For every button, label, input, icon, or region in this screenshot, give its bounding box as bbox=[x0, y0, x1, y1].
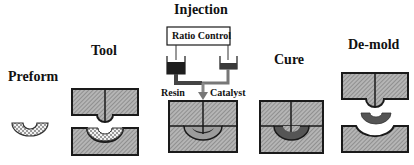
tool-lower-mold bbox=[72, 128, 138, 155]
injection-mold bbox=[169, 101, 237, 152]
demold-cured-part bbox=[361, 113, 391, 124]
stage-label-tool: Tool bbox=[91, 43, 117, 59]
tool-upper-mold bbox=[72, 89, 138, 122]
catalyst-label: Catalyst bbox=[210, 87, 246, 98]
stage-label-demold: De-mold bbox=[348, 37, 399, 53]
cure-mold bbox=[260, 101, 323, 153]
stage-label-injection: Injection bbox=[174, 2, 228, 18]
stage-label-cure: Cure bbox=[274, 52, 304, 68]
ratio-control-label: Ratio Control bbox=[172, 30, 231, 41]
demold-lower-mold bbox=[342, 126, 408, 152]
flow-arrow-icon bbox=[198, 92, 208, 100]
demold-upper-mold bbox=[342, 73, 408, 107]
rtm-process-diagram bbox=[0, 0, 414, 165]
resin-label: Resin bbox=[161, 87, 185, 98]
preform-shape bbox=[12, 123, 48, 136]
stage-label-preform: Preform bbox=[8, 69, 58, 85]
